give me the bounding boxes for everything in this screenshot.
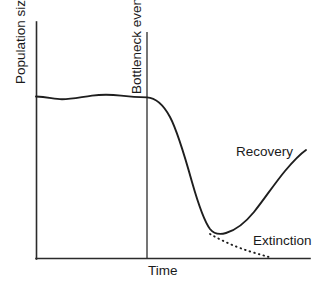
recovery-label: Recovery — [236, 145, 293, 159]
extinction-label: Extinction — [253, 234, 312, 248]
bottleneck-event-label: Bottleneck event — [130, 0, 144, 94]
population-bottleneck-figure: Population size Bottleneck event Time Re… — [0, 0, 325, 290]
x-axis-label: Time — [148, 264, 178, 278]
y-axis-label: Population size — [14, 0, 28, 84]
population-curve-recovery — [36, 95, 306, 234]
